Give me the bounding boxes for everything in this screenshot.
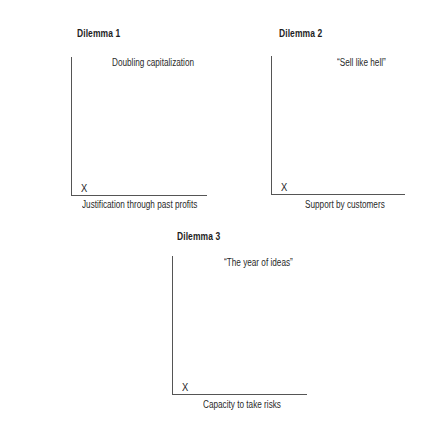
dilemma-1-y-axis [71,57,72,195]
dilemma-1-x-marker: X [81,182,87,194]
dilemma-1-title: Dilemma 1 [77,28,120,39]
dilemma-2-x-label: Support by customers [305,199,385,210]
dilemma-3-x-axis [172,394,307,395]
dilemma-1-x-axis [71,195,207,196]
dilemma-1-x-label: Justification through past profits [82,199,197,210]
dilemma-3-title: Dilemma 3 [177,231,220,242]
dilemma-3-x-label: Capacity to take risks [203,399,281,410]
dilemma-2-x-marker: X [281,181,287,193]
dilemma-2-x-axis [271,194,405,195]
dilemma-2-title: Dilemma 2 [279,28,322,39]
dilemma-3-corner-label: “The year of ideas” [224,257,293,268]
dilemma-3-x-marker: X [182,381,188,393]
dilemma-1-corner-label: Doubling capitalization [112,57,194,68]
dilemma-2-y-axis [271,56,272,194]
dilemma-2-corner-label: “Sell like hell” [337,57,386,68]
dilemma-3-y-axis [172,256,173,394]
